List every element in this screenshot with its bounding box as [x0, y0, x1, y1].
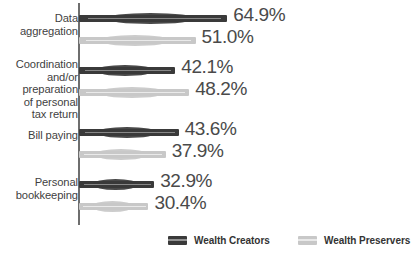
category-label: Bill paying — [0, 129, 78, 142]
bar-value-label: 30.4% — [154, 193, 206, 212]
bar-wealth-creators[interactable] — [79, 181, 154, 188]
bar-value-label: 42.1% — [181, 57, 233, 76]
bar-wealth-preservers[interactable] — [79, 89, 189, 96]
legend-swatch-icon-wealth-preservers — [298, 236, 317, 245]
bar-group: Personalbookkeeping32.9%30.4% — [0, 176, 414, 222]
bar-group: Coordinationand/orpreparationof personal… — [0, 62, 414, 120]
legend-item-wealth-creators[interactable]: Wealth Creators — [168, 231, 270, 249]
bar-value-label: 32.9% — [160, 171, 212, 190]
category-label: Dataaggregation — [0, 12, 78, 37]
bar-wealth-creators[interactable] — [79, 67, 175, 74]
plot-area: Dataaggregation64.9%51.0%Coordinationand… — [0, 0, 414, 228]
legend-label-wealth-preservers: Wealth Preservers — [324, 235, 410, 246]
bar-wealth-preservers[interactable] — [79, 151, 166, 158]
bar-value-label: 64.9% — [233, 5, 285, 24]
bar-wealth-creators[interactable] — [79, 15, 227, 22]
bar-value-label: 51.0% — [202, 27, 254, 46]
bar-group: Dataaggregation64.9%51.0% — [0, 10, 414, 56]
bar-value-label: 43.6% — [185, 119, 237, 138]
legend-swatch-icon-wealth-creators — [168, 236, 187, 245]
category-label: Coordinationand/orpreparationof personal… — [0, 58, 78, 121]
legend-label-wealth-creators: Wealth Creators — [194, 235, 270, 246]
grouped-bar-chart: Dataaggregation64.9%51.0%Coordinationand… — [0, 0, 414, 277]
bar-wealth-preservers[interactable] — [79, 203, 148, 210]
chart-legend: Wealth Creators Wealth Preservers — [0, 231, 414, 251]
bar-group: Bill paying43.6%37.9% — [0, 124, 414, 170]
category-label: Personalbookkeeping — [0, 176, 78, 201]
legend-item-wealth-preservers[interactable]: Wealth Preservers — [298, 231, 410, 249]
bar-value-label: 48.2% — [195, 79, 247, 98]
bar-value-label: 37.9% — [172, 141, 224, 160]
bar-wealth-creators[interactable] — [79, 129, 179, 136]
bar-wealth-preservers[interactable] — [79, 37, 196, 44]
